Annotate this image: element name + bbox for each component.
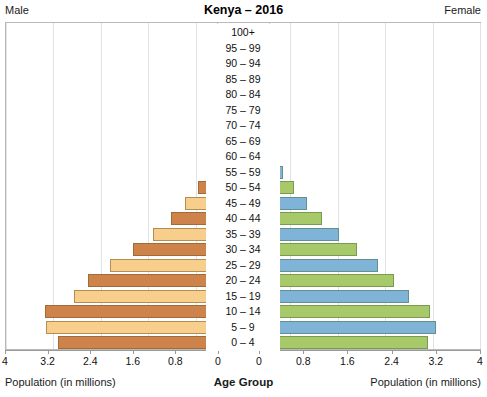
axis-tick [175,350,176,354]
axis-tick-label: 0.8 [296,355,311,367]
pyramid-row: 20 – 24 [6,271,480,287]
pyramid-row: 55 – 59 [6,163,480,179]
axis-tick [436,350,437,354]
age-group-label: 50 – 54 [206,179,280,196]
age-group-label: 40 – 44 [206,210,280,227]
pyramid-row: 30 – 34 [6,240,480,256]
pyramid-row: 100+ [6,23,480,39]
pyramid-row: 85 – 89 [6,70,480,86]
pyramid-row: 65 – 69 [6,132,480,148]
pyramid-row: 90 – 94 [6,54,480,70]
axis-tick-label: 3.2 [428,355,443,367]
pyramid-row: 5 – 9 [6,318,480,334]
age-group-label: 70 – 74 [206,117,280,134]
pyramid-row: 10 – 14 [6,302,480,318]
pyramid-row: 75 – 79 [6,101,480,117]
pyramid-row: 15 – 19 [6,287,480,303]
gridline [480,23,481,349]
axis-tick [480,350,481,354]
age-group-label: 45 – 49 [206,195,280,212]
axis-tick-label: 4 [477,355,483,367]
axis-tick-label: 0.8 [168,355,183,367]
axis-tick [303,350,304,354]
axis-tick-label: 1.6 [340,355,355,367]
pyramid-row: 60 – 64 [6,147,480,163]
pyramid-row: 0 – 4 [6,333,480,349]
age-group-label: 20 – 24 [206,272,280,289]
age-group-label: 100+ [206,24,280,41]
axis-tick-label: 2.4 [384,355,399,367]
age-group-label: 55 – 59 [206,164,280,181]
pyramid-row: 50 – 54 [6,178,480,194]
x-axis-label-right: Population (in millions) [370,376,481,388]
axis-tick [48,350,49,354]
age-group-label: 35 – 39 [206,226,280,243]
age-group-label: 60 – 64 [206,148,280,165]
axis-tick [392,350,393,354]
pyramid-row: 35 – 39 [6,225,480,241]
axis-tick-label: 0 [215,355,221,367]
x-axis-left [5,350,219,351]
axis-tick-label: 3.2 [40,355,55,367]
age-group-label: 15 – 19 [206,288,280,305]
age-group-label: 65 – 69 [206,133,280,150]
pyramid-row: 45 – 49 [6,194,480,210]
axis-tick-label: 4 [2,355,8,367]
age-group-label: 90 – 94 [206,55,280,72]
axis-tick-label: 1.6 [125,355,140,367]
pyramid-row: 95 – 99 [6,39,480,55]
age-group-label: 25 – 29 [206,257,280,274]
axis-tick [90,350,91,354]
chart-title: Kenya – 2016 [0,3,487,17]
axis-tick [133,350,134,354]
axis-tick-label: 2.4 [83,355,98,367]
axis-tick-label: 0 [256,355,262,367]
age-group-label: 75 – 79 [206,102,280,119]
pyramid-row: 70 – 74 [6,116,480,132]
age-group-label: 80 – 84 [206,86,280,103]
axis-tick [5,350,6,354]
axis-tick [347,350,348,354]
pyramid-row: 80 – 84 [6,85,480,101]
pyramid-row: 40 – 44 [6,209,480,225]
x-axis-right [259,350,481,351]
age-group-label: 5 – 9 [206,319,280,336]
pyramid-row: 25 – 29 [6,256,480,272]
population-pyramid-plot: 100+95 – 9990 – 9485 – 8980 – 8475 – 797… [5,22,481,350]
age-group-label: 10 – 14 [206,303,280,320]
age-group-label: 85 – 89 [206,71,280,88]
age-group-label: 30 – 34 [206,241,280,258]
age-group-label: 95 – 99 [206,40,280,57]
age-group-label: 0 – 4 [206,334,280,351]
